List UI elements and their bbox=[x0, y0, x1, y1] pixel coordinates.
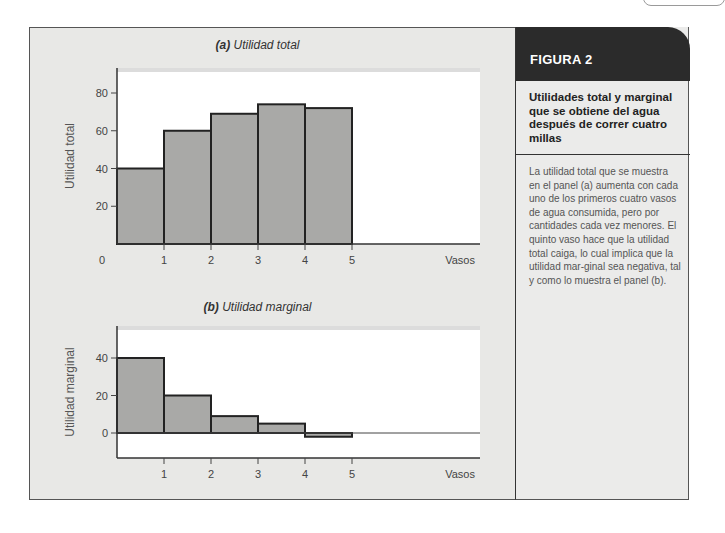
y-axis-label: Utilidad total bbox=[63, 123, 77, 189]
x-tick-label: 4 bbox=[302, 468, 308, 480]
x-tick-label: 2 bbox=[208, 468, 214, 480]
plot-area-shade bbox=[117, 326, 480, 330]
x-tick-label: 3 bbox=[255, 468, 261, 480]
y-tick-label: 40 bbox=[96, 163, 108, 175]
x-tick-label: 3 bbox=[255, 254, 261, 266]
figure-sidebar: FIGURA 2 Utilidades total y marginal que… bbox=[515, 27, 689, 500]
y-tick-label: 0 bbox=[102, 427, 108, 439]
x-tick-label: 5 bbox=[349, 468, 355, 480]
x-tick-label: 2 bbox=[208, 254, 214, 266]
plot-area bbox=[117, 326, 480, 458]
figure-caption: La utilidad total que se muestra en el p… bbox=[529, 165, 681, 287]
y-axis-label: Utilidad marginal bbox=[63, 347, 77, 436]
x-tick-label: 1 bbox=[161, 468, 167, 480]
x-tick-label: 5 bbox=[349, 254, 355, 266]
y-tick-label: 20 bbox=[96, 390, 108, 402]
figure-label: FIGURA 2 bbox=[530, 52, 593, 67]
y-tick-label: 80 bbox=[96, 87, 108, 99]
x-axis-label: Vasos bbox=[445, 254, 475, 266]
figure-title: Utilidades total y marginal que se obtie… bbox=[516, 81, 690, 155]
bar-5 bbox=[305, 433, 352, 437]
plot-area-shade bbox=[117, 68, 480, 72]
charts-svg: 20406080123450VasosUtilidad total0204012… bbox=[0, 0, 515, 533]
x-tick-label: 4 bbox=[302, 254, 308, 266]
x-tick-label-zero: 0 bbox=[99, 254, 105, 266]
bar-3 bbox=[211, 114, 258, 244]
bar-2 bbox=[164, 396, 211, 434]
x-tick-label: 1 bbox=[161, 254, 167, 266]
bar-1 bbox=[117, 169, 164, 245]
bar-1 bbox=[117, 358, 164, 433]
page-corner-tab bbox=[643, 0, 725, 6]
y-tick-label: 60 bbox=[96, 125, 108, 137]
x-axis-label: Vasos bbox=[445, 468, 475, 480]
bar-5 bbox=[305, 108, 352, 244]
bar-4 bbox=[258, 104, 305, 244]
y-tick-label: 20 bbox=[96, 200, 108, 212]
bar-3 bbox=[211, 416, 258, 433]
figure-label-header: FIGURA 2 bbox=[516, 27, 690, 81]
y-tick-label: 40 bbox=[96, 352, 108, 364]
bar-2 bbox=[164, 131, 211, 244]
bar-4 bbox=[258, 424, 305, 433]
